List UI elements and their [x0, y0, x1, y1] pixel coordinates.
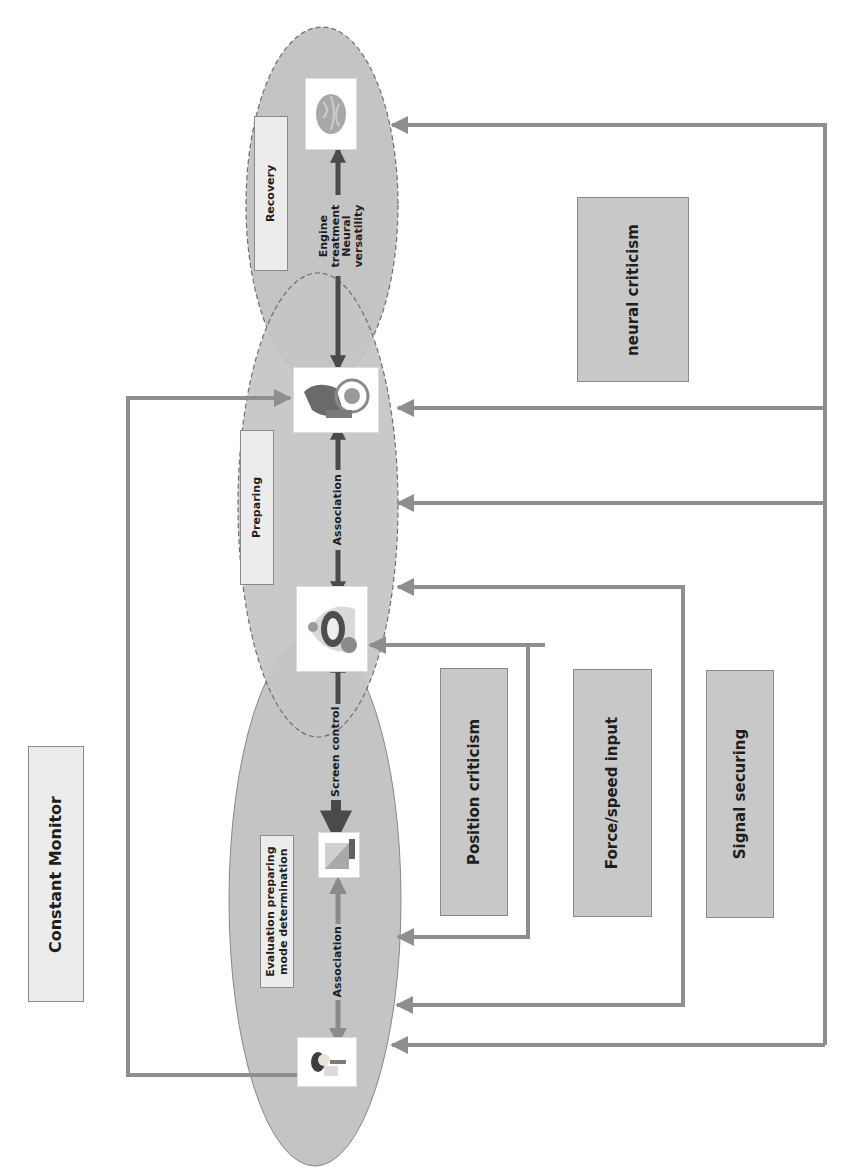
- exoskeleton-icon: [296, 586, 368, 672]
- screen-icon: [318, 832, 360, 878]
- evaluation-stage-label-line2: mode determination: [277, 846, 290, 976]
- engine-treatment-label: Engine treatment Neural versatility: [302, 196, 382, 276]
- neural-criticism-label: neural criticism: [624, 224, 642, 356]
- neural-criticism-box: neural criticism: [577, 197, 689, 382]
- signal-securing-box: Signal securing: [706, 670, 774, 918]
- constant-monitor-box: Constant Monitor: [28, 746, 84, 1002]
- wheelchair-robot-icon: [293, 367, 379, 433]
- constant-monitor-label: Constant Monitor: [47, 795, 66, 952]
- association-label-2: Association: [323, 470, 353, 550]
- evaluation-stage-label-line1: Evaluation preparing: [264, 846, 277, 976]
- preparing-stage-box: Preparing: [240, 430, 274, 585]
- association-label-1: Association: [323, 922, 353, 1002]
- position-criticism-label: Position criticism: [465, 719, 483, 865]
- force-speed-input-box: Force/speed input: [573, 669, 652, 917]
- force-speed-input-label: Force/speed input: [604, 717, 622, 869]
- screen-control-label: Screen control: [321, 704, 351, 800]
- patient-icon: [297, 1037, 357, 1087]
- position-criticism-box: Position criticism: [440, 668, 508, 916]
- diagram-canvas: [0, 0, 852, 1168]
- preparing-stage-label: Preparing: [251, 477, 264, 538]
- evaluation-stage-box: Evaluation preparing mode determination: [260, 835, 294, 988]
- recovery-stage-label: Recovery: [265, 165, 278, 222]
- recovery-stage-box: Recovery: [254, 116, 288, 271]
- signal-securing-label: Signal securing: [731, 729, 749, 859]
- brain-icon: [305, 78, 357, 150]
